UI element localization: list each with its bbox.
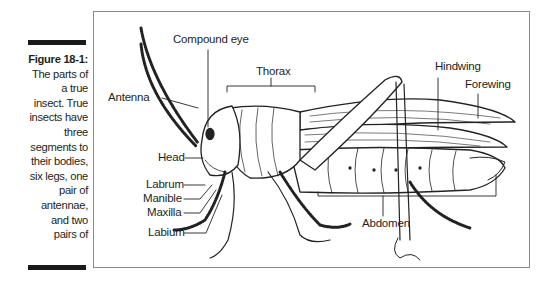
label-labrum: Labrum bbox=[146, 178, 184, 190]
label-hindwing: Hindwing bbox=[435, 60, 481, 72]
label-manible: Manible bbox=[143, 192, 182, 204]
compound-eye-icon bbox=[206, 129, 214, 140]
label-antenna: Antenna bbox=[108, 91, 149, 103]
grasshopper-illustration bbox=[0, 0, 559, 283]
thorax-bracket bbox=[227, 78, 315, 92]
label-head: Head bbox=[158, 151, 185, 163]
antenna-icon bbox=[141, 28, 198, 146]
manible-leader bbox=[184, 185, 212, 199]
label-abdomen: Abdomen bbox=[362, 217, 410, 229]
antenna-leader bbox=[162, 98, 198, 108]
label-forewing: Forewing bbox=[465, 78, 511, 90]
label-labium: Labium bbox=[148, 226, 185, 238]
label-thorax: Thorax bbox=[256, 65, 291, 77]
label-compound-eye: Compound eye bbox=[173, 33, 249, 45]
head-body bbox=[201, 106, 240, 176]
label-maxilla: Maxilla bbox=[147, 206, 181, 218]
